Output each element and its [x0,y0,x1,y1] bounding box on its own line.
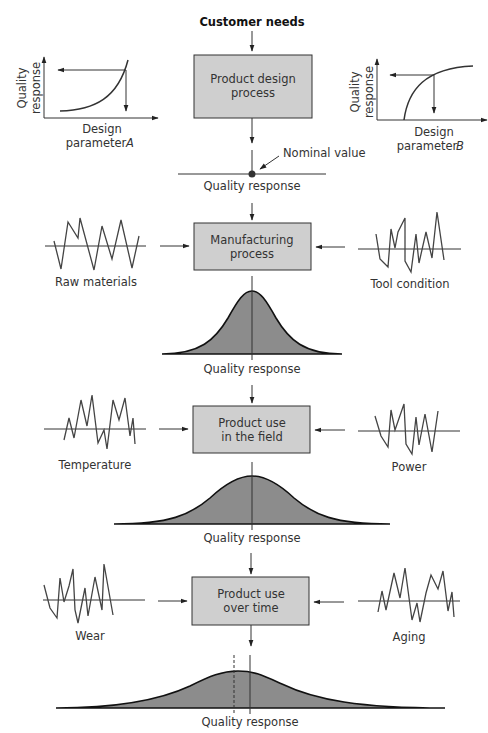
quality-response-label-3: Quality response [204,531,301,545]
nominal-value-label: Nominal value [283,146,366,160]
design-graph-b: Quality response Design parameter B [348,59,487,153]
graph-a-param: A [125,136,134,150]
distribution-field: Quality response [114,462,390,545]
stage-manufacturing-label-1: Manufacturing [210,233,293,247]
stage-manufacturing-label-2: process [230,247,274,261]
noise-wear-label: Wear [75,629,105,643]
noise-power-label: Power [392,460,427,474]
graph-a-ylabel-2: response [29,62,43,114]
quality-response-label-1: Quality response [204,179,301,193]
quality-diagram: Customer needs Product design process Qu… [0,0,488,733]
quality-response-label-2: Quality response [204,362,301,376]
distribution-manufacturing: Quality response [162,276,342,376]
graph-b-xlabel-2: parameter [397,139,458,153]
customer-needs-title: Customer needs [199,15,304,29]
graph-b-ylabel-2: response [362,66,376,118]
design-graph-a: Quality response Design parameter A [15,57,158,150]
noise-tool-condition: Tool condition [358,212,461,291]
noise-raw-materials-label: Raw materials [55,275,137,289]
graph-b-ylabel-1: Quality [348,71,362,112]
graph-a-ylabel-1: Quality [15,67,29,108]
stage-time-label-2: over time [223,601,278,615]
stage-time-box: Product use over time [192,577,309,625]
noise-tool-condition-label: Tool condition [369,277,449,291]
graph-b-xlabel-1: Design [414,125,454,139]
noise-temperature-label: Temperature [58,458,132,472]
noise-aging: Aging [358,568,460,644]
noise-power: Power [358,404,460,474]
stage-design-label-2: process [231,86,275,100]
quality-response-label-4: Quality response [202,715,299,729]
nominal-point-icon [249,171,256,178]
graph-b-param: B [456,139,464,153]
noise-wear: Wear [43,564,145,643]
stage-time-label-1: Product use [217,587,285,601]
noise-raw-materials: Raw materials [45,218,146,289]
stage-field-label-2: in the field [221,430,282,444]
stage-design-box: Product design process [194,55,312,118]
stage-manufacturing-box: Manufacturing process [194,223,311,270]
noise-temperature: Temperature [44,395,146,472]
noise-aging-label: Aging [393,630,426,644]
graph-a-xlabel-1: Design [82,122,122,136]
distribution-time: Quality response [56,655,445,729]
nominal-value-plot: Nominal value Quality response [178,146,366,193]
stage-field-box: Product use in the field [193,406,310,453]
graph-a-xlabel-2: parameter [66,136,127,150]
stage-field-label-1: Product use [218,416,286,430]
stage-design-label-1: Product design [210,72,295,86]
